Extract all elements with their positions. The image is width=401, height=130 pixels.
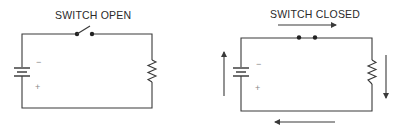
- positive-sign: +: [255, 83, 260, 93]
- wire-bottom: [22, 80, 152, 108]
- negative-sign: −: [256, 59, 261, 69]
- wire-bottom: [241, 80, 372, 111]
- circuit-diagrams: SWITCH OPEN − + SWITCH CLOSED: [0, 0, 401, 130]
- negative-sign: −: [36, 57, 41, 67]
- positive-sign: +: [35, 82, 40, 92]
- resistor-icon: [148, 60, 156, 82]
- wire-top-left: [22, 34, 77, 67]
- circuit-switch-open: SWITCH OPEN − +: [14, 9, 156, 108]
- switch-open-label: SWITCH OPEN: [55, 9, 131, 21]
- open-switch-icon: [75, 26, 94, 36]
- resistor-icon: [368, 60, 376, 84]
- battery-icon: [14, 68, 30, 80]
- circuit-switch-closed: SWITCH CLOSED − +: [224, 8, 386, 122]
- wire-top-right: [92, 34, 152, 60]
- switch-closed-label: SWITCH CLOSED: [270, 8, 360, 20]
- battery-icon: [233, 68, 249, 80]
